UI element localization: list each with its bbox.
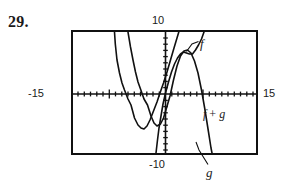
x-axis-min-label: -15	[28, 88, 44, 99]
curve-label-plus-sign: +	[206, 107, 219, 121]
x-axis-max-label: 15	[263, 88, 275, 99]
y-axis-min-label: -10	[149, 159, 165, 170]
curve-label-f: f	[200, 37, 204, 50]
exercise-number: 29.	[8, 14, 29, 30]
curve-label-g: g	[206, 166, 213, 179]
figure-exercise-29: 29.	[0, 0, 284, 189]
curve-label-g-part: g	[219, 107, 225, 121]
calculator-viewport-frame	[71, 30, 258, 155]
y-axis-max-label: 10	[152, 15, 164, 26]
curve-label-f-plus-g: f + g	[203, 108, 225, 120]
